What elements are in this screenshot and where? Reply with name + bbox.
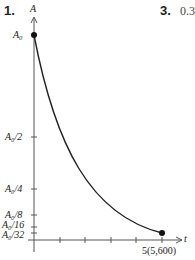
y-tick-a0-2: A₀/2	[5, 131, 22, 142]
y-tick-a0-4: A₀/4	[5, 183, 22, 194]
x-tick-end-label: 5(5,600)	[142, 245, 176, 256]
y-axis-label: A	[30, 3, 36, 14]
x-axis-label: t	[184, 233, 187, 244]
y-tick-a0: A₀	[13, 29, 23, 40]
y-tick-a0-32: A₀/32	[2, 229, 24, 240]
start-point	[31, 32, 37, 38]
decay-curve	[34, 35, 162, 233]
decay-chart	[0, 0, 195, 260]
end-point	[159, 230, 165, 236]
